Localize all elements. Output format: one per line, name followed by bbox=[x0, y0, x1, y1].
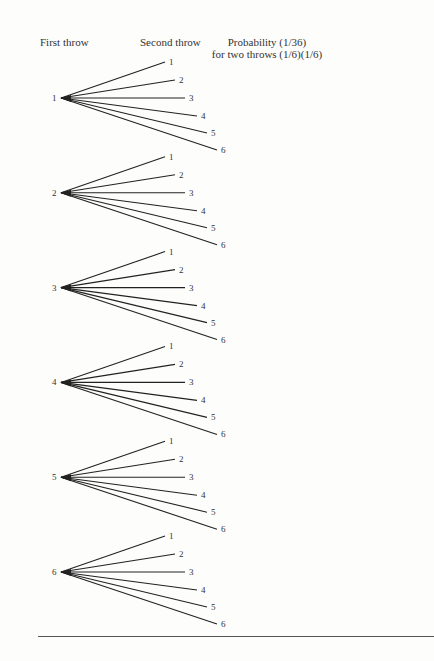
second-throw-label: 3 bbox=[189, 472, 194, 482]
branch-line bbox=[61, 572, 217, 624]
second-throw-label: 6 bbox=[221, 429, 226, 439]
branch-line bbox=[61, 62, 165, 98]
branch-line bbox=[61, 98, 197, 116]
second-throw-label: 4 bbox=[201, 395, 206, 405]
branch-line bbox=[61, 193, 217, 245]
second-throw-label: 4 bbox=[201, 585, 206, 595]
branch-line bbox=[61, 572, 207, 607]
second-throw-label: 5 bbox=[211, 602, 216, 612]
second-throw-label: 5 bbox=[211, 318, 216, 328]
tree-branch-group-1: 1123456 bbox=[52, 57, 226, 155]
second-throw-label: 6 bbox=[221, 524, 226, 534]
branch-line bbox=[61, 441, 165, 477]
tree-branch-group-3: 3123456 bbox=[52, 247, 226, 345]
second-throw-label: 2 bbox=[179, 454, 184, 464]
second-throw-label: 1 bbox=[169, 247, 174, 257]
branch-line bbox=[61, 554, 175, 572]
second-throw-label: 4 bbox=[201, 490, 206, 500]
branch-line bbox=[61, 175, 175, 193]
second-throw-label: 4 bbox=[201, 206, 206, 216]
tree-branch-group-4: 4123456 bbox=[52, 341, 226, 439]
second-throw-label: 2 bbox=[179, 170, 184, 180]
second-throw-label: 5 bbox=[211, 412, 216, 422]
second-throw-label: 1 bbox=[169, 436, 174, 446]
second-throw-label: 2 bbox=[179, 75, 184, 85]
branch-line bbox=[61, 98, 207, 133]
branch-line bbox=[61, 572, 197, 590]
second-throw-label: 4 bbox=[201, 301, 206, 311]
branch-line bbox=[61, 288, 207, 323]
branch-line bbox=[61, 364, 175, 382]
second-throw-label: 5 bbox=[211, 223, 216, 233]
second-throw-label: 3 bbox=[189, 93, 194, 103]
second-throw-label: 6 bbox=[221, 335, 226, 345]
first-throw-label: 1 bbox=[52, 93, 57, 103]
branch-line bbox=[61, 477, 217, 529]
second-throw-label: 3 bbox=[189, 377, 194, 387]
second-throw-label: 1 bbox=[169, 531, 174, 541]
second-throw-label: 1 bbox=[169, 341, 174, 351]
branch-line bbox=[61, 288, 197, 306]
branch-line bbox=[61, 252, 165, 288]
second-throw-label: 6 bbox=[221, 145, 226, 155]
branch-line bbox=[61, 477, 207, 512]
branch-line bbox=[61, 346, 165, 382]
tree-branch-group-5: 5123456 bbox=[52, 436, 226, 534]
branch-line bbox=[61, 382, 197, 400]
branch-line bbox=[61, 193, 197, 211]
second-throw-label: 6 bbox=[221, 619, 226, 629]
second-throw-label: 4 bbox=[201, 111, 206, 121]
branch-line bbox=[61, 382, 217, 434]
bottom-divider bbox=[38, 636, 434, 637]
branch-line bbox=[61, 157, 165, 193]
second-throw-label: 2 bbox=[179, 549, 184, 559]
probability-tree-diagram: 1123456212345631234564123456512345661234… bbox=[0, 0, 434, 661]
second-throw-label: 3 bbox=[189, 283, 194, 293]
second-throw-label: 2 bbox=[179, 265, 184, 275]
second-throw-label: 1 bbox=[169, 152, 174, 162]
first-throw-label: 4 bbox=[52, 377, 57, 387]
first-throw-label: 6 bbox=[52, 567, 57, 577]
second-throw-label: 5 bbox=[211, 128, 216, 138]
second-throw-label: 3 bbox=[189, 567, 194, 577]
first-throw-label: 2 bbox=[52, 188, 57, 198]
second-throw-label: 5 bbox=[211, 507, 216, 517]
branch-line bbox=[61, 477, 197, 495]
branch-line bbox=[61, 80, 175, 98]
tree-branch-group-6: 6123456 bbox=[52, 531, 226, 629]
tree-branch-group-2: 2123456 bbox=[52, 152, 226, 250]
branch-line bbox=[61, 270, 175, 288]
branch-line bbox=[61, 459, 175, 477]
second-throw-label: 6 bbox=[221, 240, 226, 250]
branch-line bbox=[61, 288, 217, 340]
branch-line bbox=[61, 382, 207, 417]
second-throw-label: 3 bbox=[189, 188, 194, 198]
branch-line bbox=[61, 536, 165, 572]
second-throw-label: 1 bbox=[169, 57, 174, 67]
first-throw-label: 3 bbox=[52, 283, 57, 293]
branch-line bbox=[61, 98, 217, 150]
first-throw-label: 5 bbox=[52, 472, 57, 482]
second-throw-label: 2 bbox=[179, 359, 184, 369]
branch-line bbox=[61, 193, 207, 228]
